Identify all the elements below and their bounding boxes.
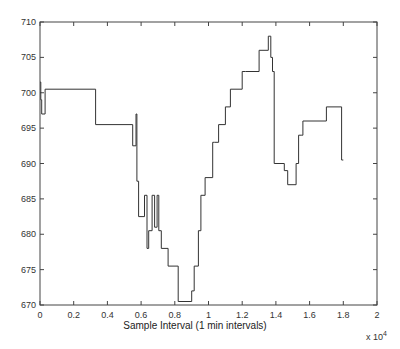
y-tick-label: 705 [21,52,36,62]
step-line-chart: 00.20.40.60.811.21.41.61.82 670675680685… [0,0,400,349]
x-tick-label: 0 [37,310,42,320]
y-tick-label: 675 [21,265,36,275]
x-tick-label: 0.2 [67,310,80,320]
x-tick-label: 0.6 [135,310,148,320]
y-tick-label: 670 [21,300,36,310]
y-tick-label: 700 [21,88,36,98]
x-tick-label: 0.8 [169,310,182,320]
y-tick-label: 710 [21,17,36,27]
y-tick-label: 685 [21,194,36,204]
x-tick-label: 1.2 [236,310,249,320]
plot-frame [40,22,377,305]
y-tick-label: 690 [21,159,36,169]
x-tick-label: 1.4 [270,310,283,320]
y-tick-label: 680 [21,229,36,239]
x-axis-label: Sample Interval (1 min intervals) [123,320,266,331]
x-tick-label: 2 [374,310,379,320]
x-tick-label: 1.6 [303,310,316,320]
x-axis-multiplier: x 104 [366,330,387,342]
x-tick-label: 1 [206,310,211,320]
x-tick-label: 1.8 [337,310,350,320]
x-tick-label: 0.4 [101,310,114,320]
y-tick-label: 695 [21,123,36,133]
